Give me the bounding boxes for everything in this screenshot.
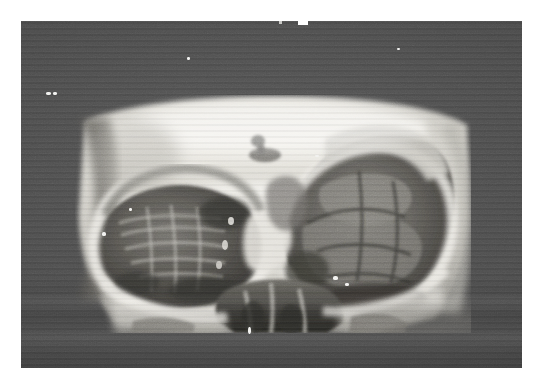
photo-frame — [21, 21, 522, 368]
page-margin-bottom — [0, 368, 539, 382]
page-canvas — [0, 0, 539, 382]
page-margin-left — [0, 0, 21, 382]
page-margin-right — [522, 0, 539, 382]
top-edge-fleck — [279, 21, 282, 24]
top-edge-notch — [298, 21, 308, 25]
skull-vector — [75, 95, 471, 333]
page-margin-top — [0, 0, 539, 21]
ct-skull-render — [75, 95, 471, 333]
